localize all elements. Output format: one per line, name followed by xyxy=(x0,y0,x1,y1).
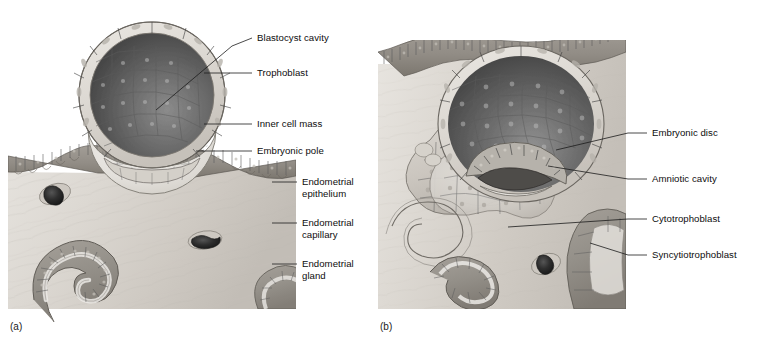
label-blastocyst-cavity: Blastocyst cavity xyxy=(257,32,329,43)
caption-panel-a: (a) xyxy=(10,321,22,332)
label-embryonic-pole: Embryonic pole xyxy=(257,145,324,156)
label-trophoblast: Trophoblast xyxy=(257,67,308,78)
label-inner-cell-mass: Inner cell mass xyxy=(257,118,322,129)
label-endometrial-capillary: Endometrial xyxy=(302,217,354,228)
blastocyst-cavity-region xyxy=(90,33,214,157)
implantation-diagram: Blastocyst cavity Trophoblast Inner cell… xyxy=(0,0,759,339)
label-endometrial-epithelium-line2: epithelium xyxy=(302,188,346,199)
label-endometrial-epithelium: Endometrial xyxy=(302,176,354,187)
label-amniotic-cavity: Amniotic cavity xyxy=(652,173,717,184)
label-embryonic-disc: Embryonic disc xyxy=(652,127,718,138)
label-cytotrophoblast: Cytotrophoblast xyxy=(652,213,720,224)
caption-panel-b: (b) xyxy=(380,321,392,332)
panel-b xyxy=(378,27,626,310)
label-endometrial-gland-line2: gland xyxy=(302,270,326,281)
label-endometrial-capillary-line2: capillary xyxy=(302,229,338,240)
figure-root: Blastocyst cavity Trophoblast Inner cell… xyxy=(0,0,759,339)
label-syncytiotrophoblast: Syncytiotrophoblast xyxy=(652,249,737,260)
label-endometrial-gland: Endometrial xyxy=(302,258,354,269)
